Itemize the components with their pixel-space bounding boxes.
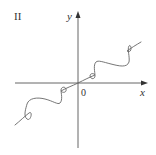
- origin-label: 0: [81, 87, 86, 98]
- x-axis-label: x: [139, 86, 145, 98]
- panel-label: II: [14, 10, 22, 22]
- y-axis-label: y: [66, 10, 72, 22]
- y-axis: [76, 11, 81, 148]
- graph-figure: II y x 0: [0, 0, 156, 155]
- x-axis-arrow-icon: [141, 81, 148, 86]
- y-axis-arrow-icon: [76, 11, 81, 18]
